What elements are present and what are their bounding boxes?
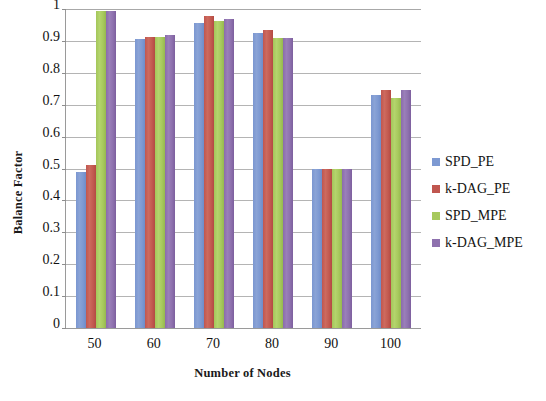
bar-face	[381, 90, 391, 328]
bar[interactable]	[224, 19, 234, 328]
bar-face	[371, 95, 381, 328]
bar[interactable]	[371, 95, 381, 328]
bar[interactable]	[322, 169, 332, 329]
bar-face	[253, 33, 263, 328]
bar[interactable]	[401, 90, 411, 328]
y-tick-label: 0.8	[22, 62, 60, 76]
bar-face	[155, 37, 165, 328]
bar[interactable]	[96, 11, 106, 328]
x-axis-title: Number of Nodes	[65, 366, 420, 381]
bar[interactable]	[165, 35, 175, 328]
bar-face	[204, 16, 214, 328]
bar-face	[263, 30, 273, 328]
x-tick-label: 60	[147, 336, 161, 352]
y-tick-label: 0.2	[22, 253, 60, 267]
y-tick-label: 0.7	[22, 94, 60, 108]
bar-face	[86, 165, 96, 328]
x-tick-label: 50	[88, 336, 102, 352]
legend-swatch-icon	[432, 158, 440, 166]
bar-group	[244, 9, 303, 328]
legend-label: k-DAG_PE	[445, 181, 510, 197]
bar-face	[283, 38, 293, 328]
bar[interactable]	[135, 39, 145, 328]
bar[interactable]	[391, 98, 401, 328]
bar-group	[303, 9, 362, 328]
legend-item[interactable]: k-DAG_MPE	[432, 229, 544, 256]
bar-group	[66, 9, 125, 328]
x-tick-label: 80	[265, 336, 279, 352]
bar-face	[401, 90, 411, 328]
y-tick-label: 0.3	[22, 221, 60, 235]
bar-face	[391, 98, 401, 328]
bar[interactable]	[342, 169, 352, 329]
legend-item[interactable]: k-DAG_PE	[432, 175, 544, 202]
x-tick-label: 70	[206, 336, 220, 352]
bar-face	[145, 37, 155, 328]
bar-chart: Balance Factor 00.10.20.30.40.50.60.70.8…	[0, 0, 546, 401]
bar[interactable]	[86, 165, 96, 328]
legend-label: SPD_PE	[445, 154, 494, 170]
y-tick-label: 0.9	[22, 30, 60, 44]
bar-face	[165, 35, 175, 328]
y-tick-mark	[62, 328, 66, 329]
bar-face	[194, 23, 204, 328]
bar-series-container	[66, 9, 421, 328]
bar[interactable]	[145, 37, 155, 328]
legend-label: SPD_MPE	[445, 208, 506, 224]
bar[interactable]	[381, 90, 391, 328]
x-axis-tick-labels: 5060708090100	[65, 336, 420, 360]
y-tick-label: 0.6	[22, 126, 60, 140]
bar[interactable]	[204, 16, 214, 328]
bar-face	[106, 11, 116, 328]
bar-group	[125, 9, 184, 328]
bar-face	[96, 11, 106, 328]
y-tick-label: 0.5	[22, 158, 60, 172]
bar[interactable]	[312, 169, 322, 329]
y-axis-tick-labels: 00.10.20.30.40.50.60.70.80.91	[22, 5, 60, 329]
y-tick-label: 0	[22, 317, 60, 331]
chart-legend: SPD_PEk-DAG_PESPD_MPEk-DAG_MPE	[432, 148, 544, 256]
bar-face	[214, 21, 224, 328]
y-tick-label: 0.4	[22, 189, 60, 203]
x-tick-label: 90	[324, 336, 338, 352]
bar[interactable]	[76, 172, 86, 328]
bar-face	[273, 38, 283, 328]
bar[interactable]	[155, 37, 165, 328]
bar[interactable]	[253, 33, 263, 328]
legend-item[interactable]: SPD_MPE	[432, 202, 544, 229]
legend-item[interactable]: SPD_PE	[432, 148, 544, 175]
y-tick-label: 0.1	[22, 285, 60, 299]
plot-area	[65, 9, 421, 329]
bar-face	[342, 169, 352, 329]
bar[interactable]	[283, 38, 293, 328]
x-tick-label: 100	[380, 336, 401, 352]
legend-swatch-icon	[432, 185, 440, 193]
legend-label: k-DAG_MPE	[445, 235, 523, 251]
legend-swatch-icon	[432, 239, 440, 247]
bar-face	[332, 169, 342, 329]
bar-group	[184, 9, 243, 328]
bar-face	[76, 172, 86, 328]
bar-face	[224, 19, 234, 328]
bar-face	[135, 39, 145, 328]
bar[interactable]	[263, 30, 273, 328]
bar[interactable]	[214, 21, 224, 328]
bar[interactable]	[194, 23, 204, 328]
bar-group	[362, 9, 421, 328]
y-tick-label: 1	[22, 0, 60, 12]
bar-face	[322, 169, 332, 329]
bar-face	[312, 169, 322, 329]
bar[interactable]	[106, 11, 116, 328]
bar[interactable]	[332, 169, 342, 329]
legend-swatch-icon	[432, 212, 440, 220]
bar[interactable]	[273, 38, 283, 328]
